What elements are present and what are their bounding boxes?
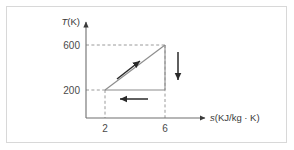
y-axis-title-units: (K) (67, 16, 80, 27)
y-tick-label-600: 600 (63, 40, 80, 51)
cycle-path-group (105, 45, 165, 90)
x-axis-tick-labels: 2 6 (102, 123, 168, 134)
y-axis-title: T(K) (62, 16, 80, 27)
figure-root: 600 200 2 6 T(K) s(KJ/kg · K) (0, 0, 294, 150)
ts-diagram-chart: 600 200 2 6 T(K) s(KJ/kg · K) (0, 0, 294, 150)
x-tick-label-6: 6 (162, 123, 168, 134)
guide-gridlines (86, 45, 165, 118)
cycle-diagonal-segment (105, 45, 165, 90)
y-axis-tick-labels: 600 200 (63, 40, 80, 96)
axis-titles: T(K) s(KJ/kg · K) (62, 16, 260, 123)
x-axis-title-units: (KJ/kg · K) (215, 112, 260, 123)
x-tick-label-2: 2 (102, 123, 108, 134)
x-axis-title: s(KJ/kg · K) (210, 112, 260, 123)
y-tick-label-200: 200 (63, 85, 80, 96)
diagonal-process-arrow (117, 61, 140, 79)
process-direction-arrows (117, 52, 178, 99)
axes (86, 22, 205, 118)
